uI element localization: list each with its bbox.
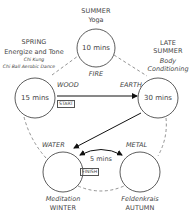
wood-duration: 15 mins	[15, 95, 55, 102]
diagram-canvas	[0, 0, 191, 212]
finish-badge: FINISH	[80, 168, 99, 176]
fire-element-label: FIRE	[78, 71, 114, 78]
wood-sub-activity-2: Chi Ball Aerobic Dance	[0, 65, 58, 70]
water-element-label: WATER	[42, 142, 65, 149]
earth-season-line1: LATE	[148, 40, 188, 47]
earth-duration: 30 mins	[138, 95, 178, 102]
dash-earth-metal	[158, 118, 166, 156]
metal-circle	[120, 152, 160, 192]
fire-activity-label: Yoga	[78, 17, 114, 24]
start-badge: START	[57, 100, 75, 108]
earth-element-label: EARTH	[120, 82, 142, 89]
earth-activity-line1: Body	[146, 58, 190, 65]
water-circle	[43, 152, 83, 192]
dash-water-metal	[78, 186, 124, 191]
wood-activity-label: Energize and Tone	[2, 49, 66, 56]
dash-fire-earth	[114, 55, 147, 76]
metal-activity-label: Feldenkrais	[114, 196, 166, 203]
fire-duration: 10 mins	[78, 45, 114, 52]
earth-season-line2: SUMMER	[148, 48, 188, 55]
dash-wood-water	[24, 117, 46, 158]
earth-activity-line2: Conditioning	[144, 66, 191, 73]
water-activity-label: Meditation	[38, 196, 88, 203]
water-season-label: WINTER	[38, 205, 88, 212]
wood-element-label: WOOD	[57, 82, 79, 89]
fire-season-label: SUMMER	[78, 8, 114, 15]
metal-season-label: AUTUMN	[114, 205, 166, 212]
metal-element-label: METAL	[126, 142, 147, 149]
wood-season-label: SPRING	[10, 39, 58, 46]
wood-sub-activity-1: Chi Kung	[2, 58, 66, 63]
water-metal-duration: 5 mins	[86, 156, 116, 163]
